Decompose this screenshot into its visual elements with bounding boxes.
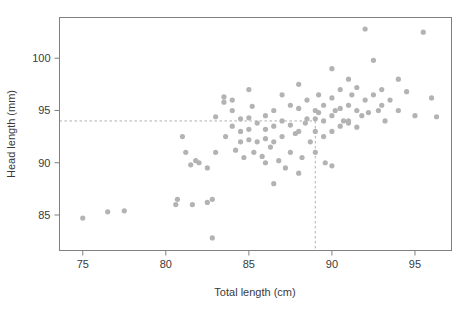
data-point [213,114,218,119]
data-point [296,106,301,111]
data-point [371,58,376,63]
data-point [313,116,318,121]
data-point [329,113,334,118]
plot-frame [60,18,452,251]
data-point [288,103,293,108]
data-point [241,155,246,160]
data-point [363,26,368,31]
data-point [255,139,260,144]
data-point [246,137,251,142]
data-point [316,92,321,97]
data-point [359,113,364,118]
x-tick-label: 75 [77,258,89,270]
x-tick-label: 80 [160,258,172,270]
data-point [183,150,188,155]
data-point [80,216,85,221]
data-point [271,108,276,113]
data-point [376,108,381,113]
data-point [238,116,243,121]
data-point [329,129,334,134]
data-point [268,144,273,149]
data-point [338,106,343,111]
data-point [329,163,334,168]
data-point [250,104,255,109]
x-axis-title: Total length (cm) [214,286,295,298]
data-point [296,129,301,134]
data-point [354,108,359,113]
data-point [260,154,265,159]
data-point [276,158,281,163]
y-axis-title: Head length (mm) [5,90,17,178]
data-point [396,108,401,113]
data-point [363,97,368,102]
data-point [321,118,326,123]
data-point [346,77,351,82]
data-point [246,127,251,132]
data-point [230,97,235,102]
data-point [175,197,180,202]
data-point [349,92,354,97]
data-point [296,82,301,87]
data-point [412,113,417,118]
data-point [263,113,268,118]
y-tick-label: 90 [38,157,50,169]
data-point [338,87,343,92]
data-point [313,150,318,155]
data-point [299,155,304,160]
x-tick-label: 90 [326,258,338,270]
data-point [205,165,210,170]
data-point [233,148,238,153]
data-point [396,77,401,82]
data-point [304,116,309,121]
data-point [346,103,351,108]
data-point [321,103,326,108]
data-point [321,134,326,139]
data-point [316,110,321,115]
data-point [271,139,276,144]
data-point [379,103,384,108]
data-point [354,85,359,90]
data-point [238,129,243,134]
data-point [404,89,409,94]
data-point [283,165,288,170]
data-point [238,139,243,144]
x-tick-label: 85 [243,258,255,270]
data-point [354,125,359,130]
data-point [333,108,338,113]
reference-lines-group [60,121,316,251]
data-point [329,66,334,71]
data-point [366,110,371,115]
x-tick-label: 95 [409,258,421,270]
data-point [434,114,439,119]
y-tick-label: 95 [38,104,50,116]
data-point [230,108,235,113]
data-point [288,123,293,128]
data-point [173,202,178,207]
data-point [213,150,218,155]
data-point [230,124,235,129]
data-points-group [80,26,439,240]
data-point [210,235,215,240]
scatter-plot-figure: 7580859095 859095100 Total length (cm) H… [0,0,466,313]
data-point [223,134,228,139]
data-point [338,124,343,129]
data-point [190,202,195,207]
data-point [205,200,210,205]
data-point [251,150,256,155]
data-point [288,150,293,155]
data-point [246,115,251,120]
data-point [196,160,201,165]
data-point [263,127,268,132]
data-point [221,100,226,105]
data-point [188,162,193,167]
data-point [387,97,392,102]
data-point [271,124,276,129]
data-point [255,120,260,125]
data-point [246,87,251,92]
data-point [279,134,284,139]
data-point [122,208,127,213]
data-point [210,197,215,202]
y-axis-ticks: 859095100 [32,52,59,221]
data-point [296,171,301,176]
data-point [304,97,309,102]
